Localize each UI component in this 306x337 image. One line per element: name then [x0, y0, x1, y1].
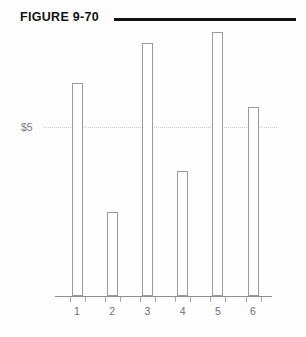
x-axis-tick-label: 1	[67, 305, 87, 317]
x-axis-tick	[210, 297, 211, 302]
figure-container: FIGURE 9-70 $5 123456	[0, 0, 306, 337]
x-axis-tick	[85, 297, 86, 302]
x-axis-tick	[70, 297, 71, 302]
bar	[72, 83, 83, 296]
x-axis-tick	[175, 297, 176, 302]
x-axis-tick-label: 6	[243, 305, 263, 317]
x-axis-tick	[225, 297, 226, 302]
x-axis-tick	[261, 297, 262, 302]
bar	[107, 212, 118, 297]
bar	[177, 171, 188, 296]
x-axis-line	[55, 296, 272, 297]
y-axis-tick-label: $5	[21, 121, 33, 133]
x-axis-tick-label: 2	[102, 305, 122, 317]
x-axis-tick-label: 5	[208, 305, 228, 317]
x-axis-tick	[120, 297, 121, 302]
bar	[248, 107, 259, 296]
x-axis-tick	[190, 297, 191, 302]
x-axis-tick	[155, 297, 156, 302]
x-axis-tick-label: 3	[137, 305, 157, 317]
bar	[212, 32, 223, 296]
x-axis-tick	[246, 297, 247, 302]
x-axis-tick	[140, 297, 141, 302]
bar-chart-plot: $5 123456	[0, 0, 306, 337]
bar	[142, 43, 153, 297]
x-axis-tick-label: 4	[173, 305, 193, 317]
x-axis-tick	[105, 297, 106, 302]
